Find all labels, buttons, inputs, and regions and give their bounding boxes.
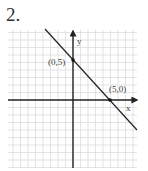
point-x-intercept <box>108 98 112 102</box>
coordinate-graph: y x (0,5) (5,0) <box>0 0 148 171</box>
y-axis-label: y <box>77 36 82 46</box>
point-label-x-intercept: (5,0) <box>109 84 126 94</box>
point-label-y-intercept: (0,5) <box>48 57 65 67</box>
point-y-intercept <box>71 58 75 62</box>
x-axis-label: x <box>126 103 131 113</box>
